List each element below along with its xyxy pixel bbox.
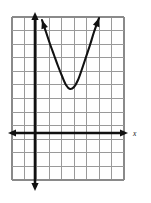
- coordinate-graph: x: [0, 0, 151, 203]
- x-axis-label: x: [132, 129, 137, 138]
- graph-figure: x: [0, 0, 151, 203]
